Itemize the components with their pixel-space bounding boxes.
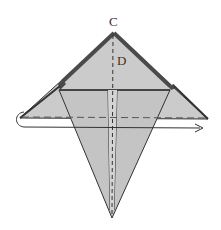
label-c: C: [109, 14, 118, 29]
label-d: D: [117, 53, 126, 68]
origami-diagram: C D: [0, 0, 221, 230]
